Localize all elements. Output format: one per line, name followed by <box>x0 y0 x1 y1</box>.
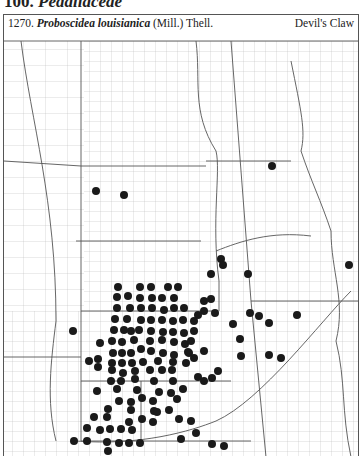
distribution-map <box>4 15 359 456</box>
family-heading: 100. Pedaliaceae <box>4 0 122 12</box>
family-name: Pedaliaceae <box>38 0 122 11</box>
map-frame: 1270. Proboscidea louisianica (Mill.) Th… <box>3 14 359 456</box>
family-number: 100. <box>4 0 34 11</box>
